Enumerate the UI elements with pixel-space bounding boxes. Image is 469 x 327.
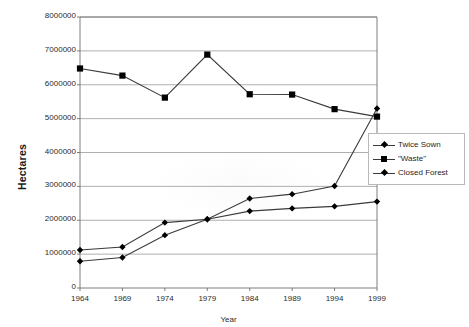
- data-point-marker: [374, 198, 380, 204]
- legend-marker-square-icon: [373, 154, 395, 164]
- data-point-marker: [162, 232, 168, 238]
- data-point-marker: [289, 191, 295, 197]
- data-point-marker: [374, 105, 380, 111]
- data-point-marker: [119, 73, 125, 79]
- data-point-marker: [247, 208, 253, 214]
- data-point-marker: [119, 244, 125, 250]
- data-point-marker: [289, 91, 295, 97]
- data-point-marker: [247, 91, 253, 97]
- data-point-marker: [77, 258, 83, 264]
- data-point-marker: [77, 247, 83, 253]
- series-waste: [77, 52, 380, 120]
- data-point-marker: [289, 205, 295, 211]
- series-line: [80, 202, 377, 262]
- data-point-marker: [331, 106, 337, 112]
- legend-item[interactable]: Closed Forest: [373, 166, 458, 180]
- data-point-marker: [204, 216, 210, 222]
- data-point-marker: [162, 95, 168, 101]
- data-point-marker: [331, 183, 337, 189]
- data-point-marker: [119, 254, 125, 260]
- data-point-marker: [77, 65, 83, 71]
- data-point-marker: [374, 113, 380, 119]
- data-point-marker: [204, 52, 210, 58]
- chart-legend: Twice Sown"Waste"Closed Forest: [368, 133, 465, 185]
- legend-item[interactable]: Twice Sown: [373, 138, 458, 152]
- legend-item[interactable]: "Waste": [373, 152, 458, 166]
- legend-marker-diamond-icon: [373, 168, 395, 178]
- line-chart: Hectares 8000000700000060000005000000400…: [0, 0, 469, 327]
- data-point-marker: [247, 195, 253, 201]
- series-closed-forest: [77, 105, 380, 253]
- legend-marker-diamond-icon: [373, 140, 395, 150]
- legend-item-label: Twice Sown: [398, 140, 441, 150]
- legend-item-label: Closed Forest: [398, 168, 448, 178]
- legend-item-label: "Waste": [398, 154, 426, 164]
- data-point-marker: [331, 203, 337, 209]
- series-line: [80, 108, 377, 250]
